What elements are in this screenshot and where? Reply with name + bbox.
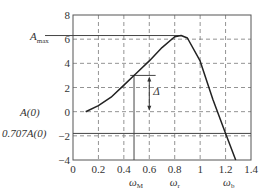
a-max-label: Amax [29, 30, 49, 45]
x-tick-label: 0 [70, 163, 76, 175]
x-tick-label: 1 [197, 163, 203, 175]
y-tick-label: 8 [65, 9, 71, 21]
x-tick-label: 0.2 [92, 163, 106, 175]
x-tick-label: 0.6 [142, 163, 156, 175]
y-tick-label: −2 [58, 130, 70, 142]
plot-frame [73, 15, 251, 160]
y-tick-label: 0 [65, 106, 71, 118]
x-tick-label: 1.2 [219, 163, 233, 175]
a707-label: 0.707A(0) [2, 127, 47, 140]
omega-label-b: ωb [223, 176, 235, 190]
amplitude-curve [86, 36, 236, 161]
x-tick-label: 0.8 [168, 163, 182, 175]
arrow-up-icon [147, 76, 151, 81]
delta-label: Δ [152, 85, 159, 97]
y-tick-label: −4 [58, 154, 70, 166]
x-tick-label: 1.4 [244, 163, 258, 175]
y-tick-label: 2 [65, 82, 71, 94]
amplitude-frequency-chart: 00.20.40.60.811.21.486420−2−4AmaxA(0)0.7… [0, 0, 274, 194]
y-tick-label: 4 [65, 57, 71, 69]
x-tick-label: 0.4 [117, 163, 131, 175]
omega-label-r: ωr [170, 176, 181, 190]
omega-label-m: ωM [129, 176, 144, 190]
arrow-down-icon [147, 106, 151, 111]
y-tick-label: 6 [65, 33, 71, 45]
a0-label: A(0) [19, 106, 40, 119]
